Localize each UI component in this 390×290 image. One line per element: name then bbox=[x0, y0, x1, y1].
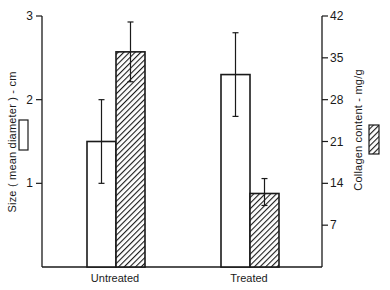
category-label-treated: Treated bbox=[230, 272, 268, 284]
right-axis-title-group: Collagen content - mg/g bbox=[352, 69, 379, 190]
axes bbox=[42, 16, 322, 267]
left-tick-label: 1 bbox=[26, 176, 33, 190]
right-tick-label: 35 bbox=[330, 51, 344, 65]
bar-chart: 123 71421283542 Size ( mean diameter ) -… bbox=[0, 0, 390, 290]
right-axis-title: Collagen content - mg/g bbox=[352, 69, 364, 190]
left-tick-label: 3 bbox=[26, 9, 33, 23]
bars bbox=[87, 22, 279, 267]
bar-group-untreated bbox=[87, 22, 145, 267]
left-tick-label: 2 bbox=[26, 93, 33, 107]
legend-open-box-icon bbox=[19, 120, 28, 150]
left-axis-title: Size ( mean diameter ) - cm bbox=[6, 71, 18, 212]
left-axis-ticks: 123 bbox=[26, 9, 42, 190]
legend-hatched-box-icon bbox=[369, 125, 379, 154]
collagen-bar-untreated bbox=[116, 52, 145, 267]
right-tick-label: 14 bbox=[330, 176, 344, 190]
right-tick-label: 7 bbox=[330, 218, 337, 232]
right-tick-label: 21 bbox=[330, 135, 344, 149]
right-axis-ticks: 71421283542 bbox=[322, 9, 344, 232]
category-label-untreated: Untreated bbox=[91, 272, 139, 284]
right-tick-label: 42 bbox=[330, 9, 344, 23]
right-tick-label: 28 bbox=[330, 93, 344, 107]
left-axis-title-group: Size ( mean diameter ) - cm bbox=[6, 71, 28, 212]
bar-group-treated bbox=[221, 33, 279, 267]
